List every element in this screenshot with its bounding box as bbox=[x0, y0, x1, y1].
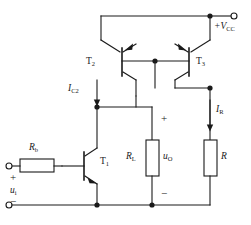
circuit-diagram: +VCC T2 T3 T1 IC2 IR Rb RL uO R ui + − +… bbox=[0, 0, 251, 225]
current-arrow-ir-head bbox=[207, 125, 213, 132]
junction-t3-collector bbox=[207, 85, 212, 90]
label-t3: T3 bbox=[196, 57, 205, 67]
circuit-schematic-svg bbox=[0, 0, 251, 225]
label-ir: IR bbox=[216, 105, 224, 115]
t2-emitter-arrowhead bbox=[125, 44, 134, 51]
rl-resistor-body bbox=[146, 140, 159, 176]
polarity-output-minus: − bbox=[161, 188, 167, 199]
polarity-input-plus: + bbox=[10, 172, 16, 183]
vcc-terminal bbox=[231, 13, 237, 19]
label-t1: T1 bbox=[100, 157, 109, 167]
t2-collector-slant bbox=[123, 72, 136, 80]
label-ic2: IC2 bbox=[68, 84, 79, 94]
junction-t1-collector bbox=[94, 104, 99, 109]
label-r: R bbox=[221, 152, 227, 162]
wire-t3-emitter-slant bbox=[191, 40, 210, 52]
label-uo: uO bbox=[163, 152, 172, 162]
input-plus-terminal bbox=[6, 163, 12, 169]
junction-shared-base bbox=[152, 58, 157, 63]
label-t2: T2 bbox=[86, 57, 95, 67]
label-vcc: +VCC bbox=[214, 22, 235, 32]
junction-rl-ground bbox=[149, 202, 154, 207]
t3-emitter-arrowhead bbox=[178, 44, 187, 51]
t3-collector-slant bbox=[175, 72, 188, 80]
polarity-output-plus: + bbox=[161, 113, 167, 124]
wire-t2-emitter-slant bbox=[101, 40, 120, 52]
label-rb: Rb bbox=[29, 143, 38, 153]
r-resistor-body bbox=[204, 140, 217, 176]
junction-t1-emitter-ground bbox=[94, 202, 99, 207]
rb-resistor-body bbox=[20, 159, 54, 172]
t1-collector-slant bbox=[85, 148, 97, 156]
label-rl: RL bbox=[126, 152, 136, 162]
polarity-input-minus: − bbox=[10, 196, 16, 207]
junction-vcc bbox=[207, 13, 212, 18]
